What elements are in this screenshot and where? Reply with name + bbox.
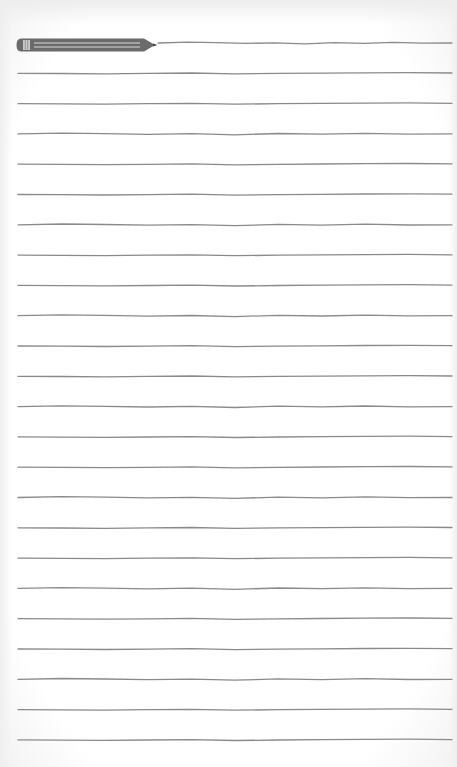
ruled-line [18,709,452,710]
ruled-line [18,103,452,104]
ruled-line [18,436,452,437]
ruled-line [18,73,452,74]
ruled-line [18,315,452,317]
ruled-line [18,467,452,468]
ruled-line [18,224,452,226]
ruled-line [18,739,452,740]
ruled-lines [0,0,457,767]
ruled-line [18,345,452,346]
ruled-line [18,557,452,558]
ruled-line [18,497,452,499]
ruled-line [18,164,452,165]
ruled-line [18,618,452,619]
ruled-line [18,679,452,681]
ruled-line [18,588,452,590]
notepad-page [0,0,457,767]
pencil-icon [16,38,158,52]
ruled-line [18,194,452,195]
ruled-line [18,527,452,528]
ruled-line [18,254,452,255]
ruled-line [18,376,452,377]
ruled-line [18,406,452,408]
ruled-line [18,133,452,135]
ruled-line [18,285,452,286]
ruled-line [158,42,452,44]
ruled-line [18,648,452,649]
